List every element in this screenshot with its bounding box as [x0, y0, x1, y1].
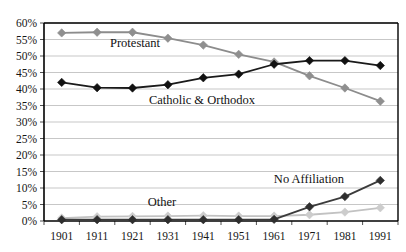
x-tick-label: 1951 — [227, 230, 250, 242]
chart-canvas: 0%5%10%15%20%25%30%35%40%45%50%55%60% 19… — [0, 0, 406, 252]
x-tick-label: 1941 — [192, 230, 215, 242]
series-label-protestant: Protestant — [110, 36, 161, 50]
line-chart: 0%5%10%15%20%25%30%35%40%45%50%55%60% 19… — [0, 0, 406, 252]
x-tick-label: 1911 — [86, 230, 109, 242]
y-tick-label: 40% — [16, 83, 38, 95]
y-tick-label: 25% — [16, 133, 38, 145]
x-tick-label: 1991 — [369, 230, 392, 242]
x-tick-label: 1961 — [263, 230, 286, 242]
y-tick-label: 55% — [16, 34, 38, 46]
series-label-no-affiliation: No Affiliation — [274, 172, 345, 186]
y-tick-label: 50% — [16, 50, 38, 62]
y-tick-label: 10% — [16, 182, 38, 194]
y-tick-label: 35% — [16, 100, 38, 112]
x-tick-label: 1981 — [333, 230, 356, 242]
x-tick-label: 1931 — [156, 230, 179, 242]
series-label-catholic-orthodox: Catholic & Orthodox — [149, 93, 256, 107]
y-tick-label: 45% — [16, 67, 38, 79]
y-tick-label: 30% — [16, 116, 38, 128]
x-tick-label: 1971 — [298, 230, 321, 242]
x-tick-label: 1921 — [121, 230, 144, 242]
x-tick-label: 1901 — [50, 230, 73, 242]
y-tick-label: 0% — [22, 215, 38, 227]
series-label-other: Other — [148, 195, 177, 209]
y-tick-label: 5% — [22, 199, 38, 211]
y-tick-label: 15% — [16, 166, 38, 178]
y-tick-label: 20% — [16, 149, 38, 161]
y-tick-label: 60% — [16, 17, 38, 29]
